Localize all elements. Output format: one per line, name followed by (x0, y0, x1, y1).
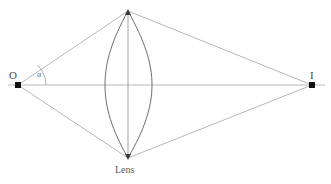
object-point-label: O (9, 70, 17, 81)
lens-right-surface (128, 11, 152, 158)
image-point-label: I (310, 70, 314, 81)
image-point-marker (309, 82, 315, 88)
object-point-marker (15, 82, 21, 88)
lens-ray-diagram: O I α Lens (0, 0, 331, 184)
lens-left-surface (105, 11, 128, 158)
diagram-canvas (0, 0, 331, 184)
lens-label: Lens (115, 165, 134, 175)
upper-refracted-ray (128, 11, 312, 85)
angle-alpha-label: α (37, 71, 41, 79)
lower-refracted-ray (128, 85, 312, 158)
